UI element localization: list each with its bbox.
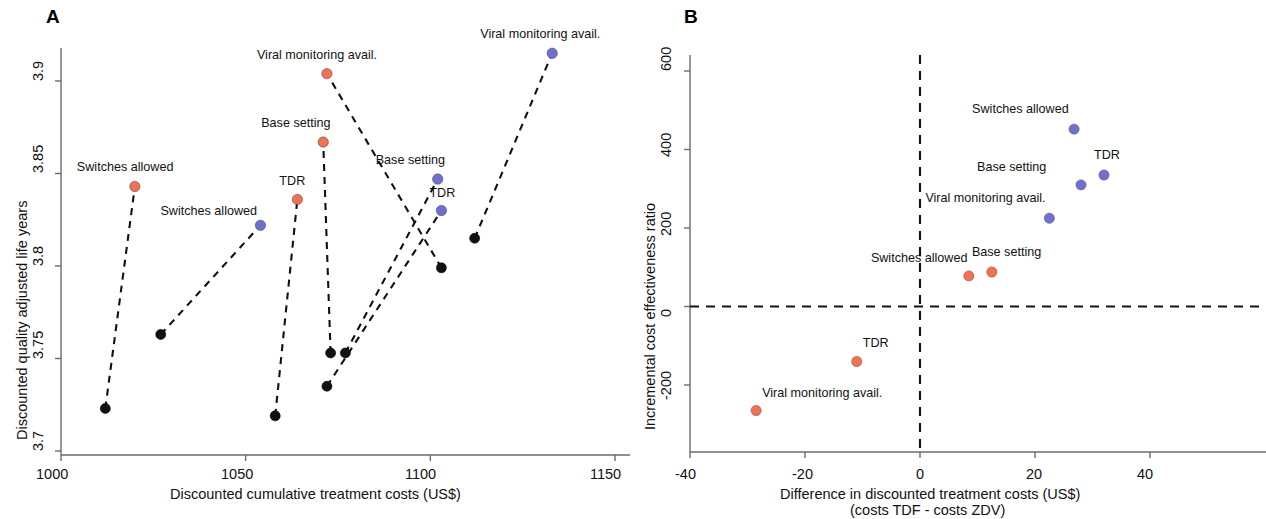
panel-b-ytick-4: -200 [658, 371, 674, 400]
point-label: Base setting [972, 246, 1041, 259]
point-label: Viral monitoring avail. [925, 192, 1045, 205]
point-label: Viral monitoring avail. [762, 387, 882, 400]
panel-b-ytick-2: 200 [658, 212, 674, 236]
panel-a-ytick-1: 3.85 [30, 145, 46, 173]
point-label: Base setting [261, 117, 330, 130]
point-label: TDR [429, 187, 455, 200]
panel-a-plot-area [0, 0, 640, 519]
point-label: Base setting [376, 154, 445, 167]
panel-b-xtick-0: -40 [675, 466, 696, 482]
panel-b-ytick-1: 400 [658, 133, 674, 157]
point-label: TDR [279, 175, 305, 188]
panel-a-xtick-1: 1050 [221, 466, 253, 482]
panel-b: B 600 400 200 0 -200 -40 -20 0 20 40 Dif… [630, 0, 1266, 519]
point-label: Viral monitoring avail. [480, 28, 600, 41]
figure-container: A 3.9 3.85 3.8 3.75 3.7 1000 1050 1100 1… [0, 0, 1266, 519]
panel-b-ytick-0: 600 [658, 47, 674, 71]
point-label: TDR [863, 337, 889, 350]
point-label: TDR [1094, 149, 1120, 162]
panel-b-ylabel: Incremental cost effectiveness ratio [642, 203, 658, 430]
panel-a-xtick-2: 1100 [405, 466, 436, 482]
panel-b-xtick-1: -20 [792, 466, 813, 482]
point-label: Switches allowed [972, 103, 1069, 116]
panel-a-ylabel: Discounted quality adjusted life years [14, 201, 30, 440]
panel-b-xtick-3: 20 [1026, 466, 1042, 482]
point-label: Base setting [977, 161, 1046, 174]
panel-a-ytick-4: 3.7 [30, 431, 46, 451]
panel-b-xlabel: Difference in discounted treatment costs… [780, 486, 1080, 502]
point-label: Switches allowed [160, 205, 257, 218]
panel-a-xtick-3: 1150 [590, 466, 621, 482]
panel-a-ytick-3: 3.75 [30, 331, 46, 359]
panel-b-xlabel-line2: (costs TDF - costs ZDV) [850, 502, 1005, 518]
panel-a-xtick-0: 1000 [36, 466, 68, 482]
panel-b-ytick-3: 0 [658, 309, 674, 317]
panel-a-ytick-0: 3.9 [30, 61, 46, 81]
panel-b-xtick-2: 0 [916, 466, 924, 482]
panel-a: A 3.9 3.85 3.8 3.75 3.7 1000 1050 1100 1… [0, 0, 640, 519]
panel-a-xlabel: Discounted cumulative treatment costs (U… [170, 486, 461, 502]
point-label: Switches allowed [871, 252, 968, 265]
point-label: Viral monitoring avail. [257, 49, 377, 62]
point-label: Switches allowed [77, 161, 174, 174]
panel-a-ytick-2: 3.8 [30, 246, 46, 266]
panel-b-xtick-4: 40 [1137, 466, 1153, 482]
